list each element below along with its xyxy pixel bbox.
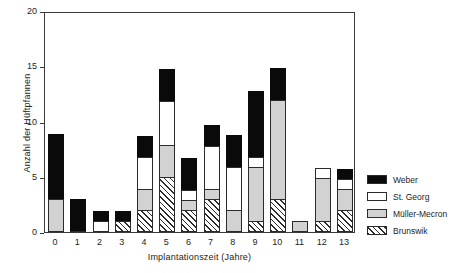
x-axis-title: Implantationszeit (Jahre) [44,252,355,262]
bar-segment [315,221,331,232]
x-axis-tick-label: 13 [332,237,356,247]
y-axis-tick: 0 [0,233,44,234]
x-axis-tick: 4 [132,233,156,247]
y-axis-tick-label: 20 [27,6,37,16]
bar-segment [337,210,353,232]
bar-stack [248,91,264,232]
bar-segment [137,157,153,190]
bar-segment [226,167,242,211]
chart-legend: WeberSt. GeorgMüller-MecronBrunswik [367,172,459,240]
bar-segment [70,199,86,232]
plot-area [44,12,355,233]
bar-segment [115,221,131,232]
bar-stack [159,69,175,232]
bar-segment [48,199,64,232]
legend-item-label: Weber [393,175,418,185]
legend-item-label: Brunswik [393,226,427,236]
bar-segment [248,221,264,232]
y-axis-tick: 20 [0,12,44,13]
bar-segment [315,178,331,222]
x-axis-tick-label: 1 [65,237,89,247]
bar-segment [226,210,242,232]
bar-stack [137,136,153,232]
legend-item-label: St. Georg [393,192,429,202]
x-axis-tick-label: 4 [132,237,156,247]
bar-stack [292,221,308,232]
x-axis-tick-label: 6 [176,237,200,247]
x-axis-tick-label: 2 [88,237,112,247]
bar-segment [137,210,153,232]
bar-segment [181,158,197,191]
bar-segment [204,125,220,147]
bar-segment [270,68,286,101]
y-axis-tick-label: 0 [32,227,37,237]
x-axis-tick: 6 [176,233,200,247]
y-axis-tick-label: 10 [27,117,37,127]
bar-stack [226,135,242,232]
y-axis-tick-label: 5 [32,172,37,182]
legend-swatch-st-georg [367,192,387,201]
legend-swatch-brunswik [367,226,387,235]
bar-segment [181,210,197,232]
x-axis-tick: 0 [43,233,67,247]
y-axis-tick: 10 [0,123,44,124]
y-axis-tick: 15 [0,67,44,68]
bars-layer [45,13,354,232]
bar-segment [137,136,153,158]
legend-item: St. Georg [367,189,459,204]
bar-segment [292,221,308,232]
x-axis-tick: 10 [265,233,289,247]
legend-item-label: Müller-Mecron [393,209,447,219]
legend-item: Brunswik [367,223,459,238]
x-axis-tick: 7 [199,233,223,247]
x-axis-tick-label: 0 [43,237,67,247]
bar-stack [93,211,109,232]
x-axis-tick-label: 8 [221,237,245,247]
bar-stack [48,134,64,232]
bar-segment [270,100,286,199]
x-axis-tick-label: 5 [154,237,178,247]
bar-segment [226,135,242,168]
bar-stack [337,169,353,232]
bar-segment [159,145,175,178]
x-axis-tick: 2 [88,233,112,247]
bar-segment [159,101,175,145]
bar-segment [270,199,286,232]
x-axis-tick-label: 3 [110,237,134,247]
x-axis-tick: 9 [243,233,267,247]
bar-stack [70,199,86,232]
bar-stack [181,158,197,232]
x-axis-tick: 5 [154,233,178,247]
bar-segment [159,69,175,102]
bar-chart-figure: Anzahl der Hüftpfannen 05101520 01234567… [0,0,459,273]
x-axis-tick: 13 [332,233,356,247]
x-axis-tick: 12 [310,233,334,247]
y-axis-tick: 5 [0,178,44,179]
legend-swatch-mueller-mecron [367,209,387,218]
x-axis-tick-label: 12 [310,237,334,247]
bar-stack [115,211,131,232]
legend-item: Müller-Mecron [367,206,459,221]
bar-segment [204,199,220,232]
x-axis-tick-label: 9 [243,237,267,247]
y-axis-tick-label: 15 [27,61,37,71]
bar-stack [270,68,286,232]
x-axis-tick: 11 [287,233,311,247]
legend-item: Weber [367,172,459,187]
bar-stack [204,125,220,232]
bar-segment [337,189,353,211]
x-axis-tick-label: 11 [287,237,311,247]
x-axis-tick: 1 [65,233,89,247]
bar-segment [248,91,264,157]
x-axis-tick-label: 10 [265,237,289,247]
x-axis-tick: 3 [110,233,134,247]
legend-swatch-weber [367,175,387,184]
bar-segment [137,189,153,211]
x-axis-tick-label: 7 [199,237,223,247]
bar-segment [48,134,64,200]
bar-segment [248,167,264,222]
bar-segment [204,146,220,190]
bar-segment [93,221,109,232]
bar-segment [159,177,175,232]
x-axis-tick: 8 [221,233,245,247]
